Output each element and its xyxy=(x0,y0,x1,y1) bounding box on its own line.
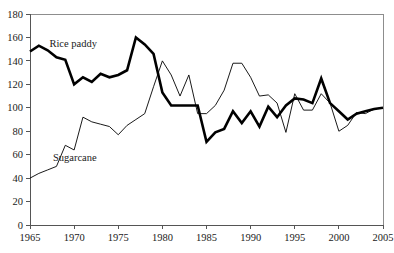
x-tick-label: 1965 xyxy=(20,232,41,243)
chart-container: 020406080100120140160180 196519701975198… xyxy=(0,0,394,253)
x-tick-label: 1990 xyxy=(240,232,261,243)
y-tick-label: 80 xyxy=(13,126,24,137)
y-tick-label: 0 xyxy=(18,220,23,231)
x-tick-label: 1995 xyxy=(284,232,305,243)
y-tick-label: 60 xyxy=(13,149,24,160)
y-tick-label: 100 xyxy=(7,102,23,113)
x-tick-label: 2005 xyxy=(373,232,394,243)
series-label-rice-paddy: Rice paddy xyxy=(49,38,97,49)
y-tick-label: 140 xyxy=(7,56,23,67)
x-tick-label: 1970 xyxy=(64,232,85,243)
y-tick-label: 120 xyxy=(7,79,23,90)
x-tick-label: 2000 xyxy=(328,232,349,243)
x-tick-label: 1980 xyxy=(152,232,173,243)
x-tick-label: 1975 xyxy=(108,232,129,243)
y-tick-label: 20 xyxy=(13,196,24,207)
line-chart: 020406080100120140160180 196519701975198… xyxy=(0,0,394,253)
series-label-sugarcane: Sugarcane xyxy=(53,152,97,163)
y-tick-label: 40 xyxy=(13,173,24,184)
y-tick-label: 160 xyxy=(7,32,23,43)
x-tick-label: 1985 xyxy=(196,232,217,243)
y-tick-label: 180 xyxy=(7,9,23,20)
